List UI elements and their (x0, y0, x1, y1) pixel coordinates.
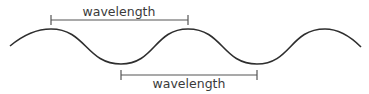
wavelength-crest-measure: wavelength (51, 4, 188, 25)
sine-wave (10, 29, 361, 64)
wavelength-label-bottom: wavelength (153, 76, 226, 91)
wavelength-diagram: wavelength wavelength (0, 0, 369, 94)
wavelength-label-top: wavelength (83, 4, 156, 19)
wavelength-trough-measure: wavelength (121, 70, 257, 91)
